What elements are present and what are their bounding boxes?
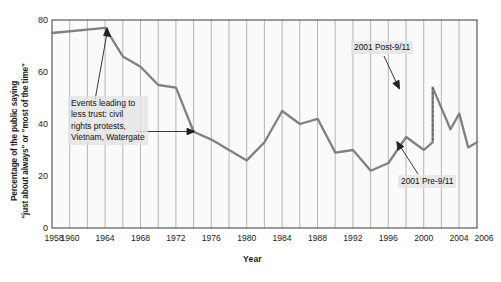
x-tick-2000: 2000	[414, 233, 433, 243]
x-tick-1972: 1972	[166, 233, 185, 243]
annotation-pre-9-11: 2001 Pre-9/11	[398, 175, 456, 188]
annotation-events-line4: Vietnam, Watergate	[71, 132, 145, 143]
x-tick-1964: 1964	[96, 233, 115, 243]
x-tick-2006: 2006	[474, 233, 493, 243]
x-tick-1976: 1976	[202, 233, 221, 243]
annotation-events-line3: rights protests,	[71, 121, 145, 132]
annotation-post-9-11: 2001 Post-9/11	[351, 41, 413, 54]
x-tick-1980: 1980	[237, 233, 256, 243]
annotation-events-line1: Events leading to	[71, 98, 145, 109]
x-tick-1996: 1996	[379, 233, 398, 243]
annotation-events-line2: less trust: civil	[71, 109, 145, 120]
x-tick-1988: 1988	[308, 233, 327, 243]
x-tick-2004: 2004	[450, 233, 469, 243]
x-tick-1968: 1968	[131, 233, 150, 243]
trust-in-government-line-chart: Percentage of the public saying "just ab…	[0, 0, 501, 282]
x-axis-title: Year	[0, 254, 501, 264]
x-axis-title-text: Year	[239, 254, 262, 264]
x-tick-1992: 1992	[343, 233, 362, 243]
x-tick-1984: 1984	[273, 233, 292, 243]
annotation-events-leading-to-less-trust: Events leading to less trust: civil righ…	[68, 96, 148, 145]
x-tick-1960: 1960	[60, 233, 79, 243]
